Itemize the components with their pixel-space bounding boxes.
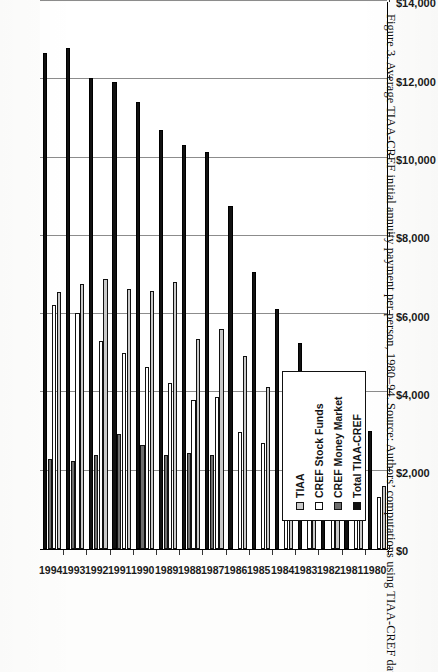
legend-label-stock: CREF Stock Funds (313, 403, 325, 498)
bar-money-1992 (94, 455, 98, 549)
bar-total-1989 (159, 130, 163, 549)
category-label-1988: 1988 (178, 564, 201, 576)
value-tick-label-12000: $12,000 (396, 76, 436, 88)
gridline-14000 (40, 0, 387, 1)
category-tick-1984 (295, 550, 296, 555)
category-tick-1992 (110, 550, 111, 555)
category-label-1992: 1992 (85, 564, 108, 576)
bar-group-1993 (63, 2, 86, 549)
category-tick-1991 (133, 550, 134, 555)
category-label-1990: 1990 (131, 564, 154, 576)
bar-tiaa-1992 (103, 279, 107, 549)
figure-caption: Figure 3. Average TIAA-CREF initial annu… (383, 14, 398, 654)
value-tick-label-4000: $4,000 (396, 389, 430, 401)
bar-tiaa-1987 (219, 329, 223, 549)
category-tick-1994 (63, 550, 64, 555)
bar-money-1990 (140, 445, 144, 549)
category-tick-1990 (156, 550, 157, 555)
legend-item-stock: CREF Stock Funds (313, 403, 325, 510)
bar-stock-1988 (191, 400, 195, 549)
category-tick-1985 (272, 550, 273, 555)
category-tick-1989 (179, 550, 180, 555)
value-tick-label-14000: $14,000 (396, 0, 436, 10)
value-tick-label-6000: $6,000 (396, 311, 430, 323)
bar-money-1991 (117, 434, 121, 549)
bar-stock-1986 (238, 432, 242, 549)
bar-money-1993 (71, 461, 75, 549)
plot-inner: TIAACREF Stock FundsCREF Money MarketTot… (40, 2, 387, 549)
bar-total-1987 (205, 152, 209, 549)
bar-stock-1990 (145, 367, 149, 549)
bar-total-1992 (89, 78, 93, 549)
category-label-1984: 1984 (271, 564, 294, 576)
legend-item-money: CREF Money Market (332, 396, 344, 510)
legend-label-total: Total TIAA-CREF (351, 414, 363, 498)
category-tick-1987 (226, 550, 227, 555)
category-tick-1986 (249, 550, 250, 555)
figure-page: $0$2,000$4,000$6,000$8,000$10,000$12,000… (0, 0, 438, 672)
legend-label-money: CREF Money Market (332, 396, 344, 498)
bar-group-1990 (133, 2, 156, 549)
bar-money-1989 (164, 455, 168, 549)
bar-group-1991 (110, 2, 133, 549)
bar-group-1992 (86, 2, 109, 549)
bar-stock-1985 (261, 443, 265, 549)
bar-total-1988 (182, 145, 186, 549)
category-label-1986: 1986 (224, 564, 247, 576)
category-tick-1981 (365, 550, 366, 555)
bar-stock-1980 (377, 497, 381, 549)
category-tick-1982 (342, 550, 343, 555)
category-label-1991: 1991 (108, 564, 131, 576)
legend-swatch-money-icon (334, 502, 342, 510)
category-label-1982: 1982 (317, 564, 340, 576)
bar-total-1985 (252, 272, 256, 549)
category-label-1993: 1993 (62, 564, 85, 576)
category-label-1981: 1981 (340, 564, 363, 576)
bar-money-1988 (187, 454, 191, 550)
bar-stock-1994 (52, 305, 56, 549)
category-label-1989: 1989 (155, 564, 178, 576)
value-tick-label-10000: $10,000 (396, 154, 436, 166)
bar-stock-1989 (168, 383, 172, 549)
bar-total-1984 (275, 309, 279, 549)
value-tick-14000 (389, 0, 390, 2)
value-tick-label-8000: $8,000 (396, 232, 430, 244)
category-tick-1988 (202, 550, 203, 555)
category-label-1994: 1994 (39, 564, 62, 576)
bar-money-1994 (48, 459, 52, 549)
category-label-1985: 1985 (247, 564, 270, 576)
plot-area: TIAACREF Stock FundsCREF Money MarketTot… (40, 2, 388, 550)
category-label-1983: 1983 (294, 564, 317, 576)
bar-tiaa-1986 (243, 356, 247, 549)
bar-group-1989 (156, 2, 179, 549)
bar-total-1980 (368, 431, 372, 549)
bar-group-1986 (226, 2, 249, 549)
bar-stock-1992 (99, 341, 103, 549)
bar-group-1987 (202, 2, 225, 549)
legend-item-tiaa: TIAA (294, 474, 306, 511)
value-tick-label-2000: $2,000 (396, 467, 430, 479)
bar-total-1990 (136, 102, 140, 549)
legend-swatch-stock-icon (315, 502, 323, 510)
bar-tiaa-1988 (196, 339, 200, 549)
bar-group-1985 (249, 2, 272, 549)
bar-stock-1991 (122, 353, 126, 549)
bar-group-1988 (179, 2, 202, 549)
bar-money-1987 (210, 455, 214, 549)
bar-tiaa-1985 (266, 387, 270, 549)
legend-label-tiaa: TIAA (294, 474, 306, 499)
bar-total-1993 (66, 48, 70, 549)
bar-tiaa-1989 (173, 282, 177, 549)
chart-legend: TIAACREF Stock FundsCREF Money MarketTot… (282, 371, 366, 521)
legend-swatch-tiaa-icon (296, 502, 304, 510)
chart-stage: $0$2,000$4,000$6,000$8,000$10,000$12,000… (30, 0, 408, 612)
category-tick-1983 (318, 550, 319, 555)
bar-tiaa-1991 (127, 289, 131, 549)
bar-stock-1993 (75, 313, 79, 549)
legend-item-total: Total TIAA-CREF (351, 414, 363, 510)
category-tick-1993 (86, 550, 87, 555)
bar-tiaa-1994 (57, 292, 61, 549)
bar-tiaa-1993 (80, 284, 84, 549)
bar-total-1994 (43, 53, 47, 549)
legend-swatch-total-icon (353, 502, 361, 510)
